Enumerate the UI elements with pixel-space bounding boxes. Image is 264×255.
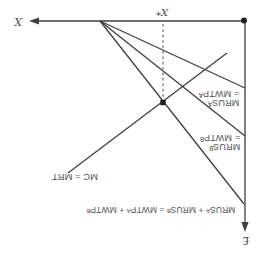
curve-a-label-line2: = MWTPᴬ: [199, 89, 240, 98]
x-axis-arrowhead: [29, 17, 39, 24]
aggregate-curve-label: MRUSᴬ + MRUSᴮ = MWTPᴬ + MWTPᴮ: [87, 206, 236, 215]
corner-point: [241, 18, 247, 24]
diagram-lines: [0, 0, 264, 255]
curve-b-label-line2: = MWTPᴮ: [200, 133, 240, 142]
equilibrium-point: [160, 100, 165, 105]
money-axis-label: £: [243, 234, 250, 246]
money-axis-arrowhead: [241, 222, 248, 232]
curve-a-label: MRUSᴬ = MWTPᴬ: [199, 89, 240, 108]
mc-mrt-label: MC = MRT: [52, 172, 98, 182]
curve-a-label-line1: MRUSᴬ: [199, 98, 240, 107]
diagram-canvas: X X* MRUSᴬ = MWTPᴬ MRUSᴮ = MWTPᴮ MRUSᴬ +…: [0, 0, 264, 255]
curve-b-label-line1: MRUSᴮ: [200, 142, 240, 151]
x-star-label: X*: [156, 7, 168, 18]
x-axis-label: X: [14, 15, 22, 27]
curve-b-label: MRUSᴮ = MWTPᴮ: [200, 133, 240, 152]
